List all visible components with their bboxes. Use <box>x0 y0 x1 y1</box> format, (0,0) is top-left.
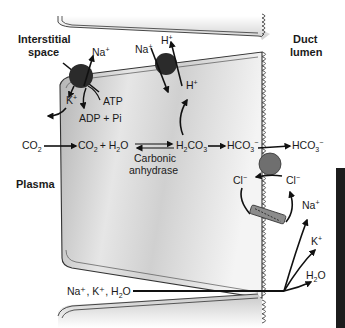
interstitial-label: Interstitial <box>18 33 71 45</box>
plasma-label: Plasma <box>16 178 55 190</box>
co2-h2o-label: CO2+ H2O <box>78 139 128 153</box>
page-edge-bar <box>336 168 345 328</box>
h2o-lumen-label: H2O <box>306 269 326 283</box>
duct-label: Duct <box>293 33 318 45</box>
enzyme-label-2: anhydrase <box>129 164 178 176</box>
h2co3-label: H2CO3 <box>176 139 207 153</box>
lower-cell <box>58 294 262 328</box>
na-out-label: Na+ <box>92 46 110 58</box>
paracellular-source-label: Na⁺, K⁺, H2O <box>67 285 131 299</box>
na-lumen-label: Na+ <box>302 199 320 211</box>
co2-plasma-label: CO2 <box>22 139 42 153</box>
duct-label-2: lumen <box>290 46 323 58</box>
cl-hco3-exchanger <box>259 153 281 175</box>
hco3-lumen-label: HCO3− <box>292 139 323 153</box>
atp-label: ATP <box>103 95 123 107</box>
interstitial-label-2: space <box>28 46 59 58</box>
hco3-cell-label: HCO3− <box>227 139 258 153</box>
na-in-label: Na+ <box>135 43 153 55</box>
salivary-duct-diagram: Interstitial space Duct lumen Plasma Na+… <box>0 0 345 328</box>
enzyme-label: Carbonic <box>134 152 176 164</box>
k-lumen-label: K+ <box>311 235 322 247</box>
adp-pi-label: ADP + Pi <box>79 112 122 124</box>
cl-out-label: Cl− <box>286 174 300 186</box>
